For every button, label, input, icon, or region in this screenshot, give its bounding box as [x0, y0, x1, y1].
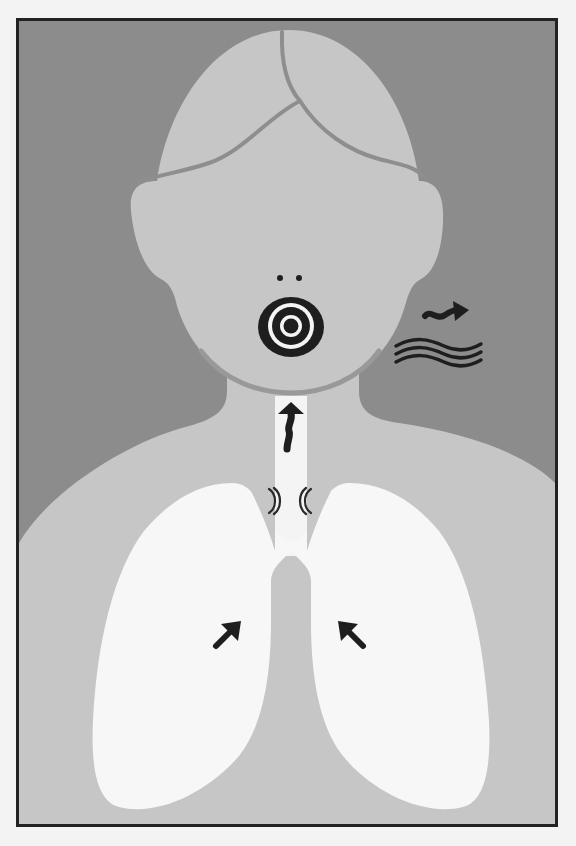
mouth-rings-icon: [258, 297, 324, 357]
voice-production-illustration: [19, 21, 555, 824]
figure-frame: [16, 18, 558, 827]
page: Voice production: airflow from lungs thr…: [0, 0, 576, 846]
nostril-left: [277, 275, 283, 281]
figure-title: Voice production: airflow from lungs thr…: [0, 0, 1, 1]
nostril-right: [296, 275, 302, 281]
